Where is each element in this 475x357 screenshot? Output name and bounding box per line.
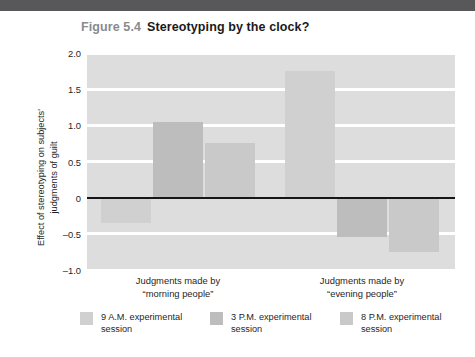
y-axis-tick-label: 0 <box>47 192 81 203</box>
gridline <box>87 124 455 127</box>
legend-label-line-1: 3 P.M. experimental <box>231 312 312 322</box>
chart-legend: 9 A.M. experimentalsession3 P.M. experim… <box>80 311 472 345</box>
figure-title-row: Figure 5.4Stereotyping by the clock? <box>81 20 309 34</box>
legend-label-line-2: session <box>361 323 469 335</box>
y-axis-tick-label: –1.0 <box>47 265 81 276</box>
legend-label-line-2: session <box>231 323 339 335</box>
legend-label-line-2: session <box>101 323 209 335</box>
figure-container: Figure 5.4Stereotyping by the clock? Eff… <box>0 0 475 357</box>
gridline <box>87 160 455 163</box>
x-axis-category-label-line-1: Judgments made by <box>93 275 263 288</box>
x-axis-category-label-line-2: “morning people” <box>93 288 263 301</box>
legend-label-line-1: 8 P.M. experimental <box>361 312 442 322</box>
legend-label-line-1: 9 A.M. experimental <box>101 312 182 322</box>
legend-item[interactable]: 9 A.M. experimentalsession <box>80 311 209 336</box>
bar <box>101 198 151 223</box>
bar <box>153 122 203 198</box>
plot-area <box>87 53 455 270</box>
legend-color-swatch <box>80 312 93 325</box>
figure-number: Figure 5.4 <box>81 20 141 34</box>
y-axis-tick-label: 1.0 <box>47 120 81 131</box>
legend-color-swatch <box>340 312 353 325</box>
figure-title: Stereotyping by the clock? <box>147 20 309 34</box>
legend-label: 9 A.M. experimentalsession <box>101 311 209 336</box>
zero-baseline <box>87 197 455 199</box>
bar <box>205 143 255 197</box>
x-axis-category-label-line-1: Judgments made by <box>277 275 447 288</box>
legend-label: 3 P.M. experimentalsession <box>231 311 339 336</box>
y-axis-tick-label: 1.5 <box>47 84 81 95</box>
gridline <box>87 269 455 271</box>
y-axis-tick-label: 2.0 <box>47 48 81 59</box>
legend-color-swatch <box>210 312 223 325</box>
gridline <box>87 53 455 55</box>
bar <box>285 71 335 198</box>
x-axis-category-labels: Judgments made by“morning people”Judgmen… <box>87 275 455 305</box>
y-axis-tick-label: –0.5 <box>47 228 81 239</box>
x-axis-category-label: Judgments made by“morning people” <box>93 275 263 300</box>
top-rule-divider <box>0 0 475 11</box>
bar <box>389 198 439 252</box>
y-axis-tick-label: 0.5 <box>47 156 81 167</box>
legend-item[interactable]: 3 P.M. experimentalsession <box>210 311 339 336</box>
legend-item[interactable]: 8 P.M. experimentalsession <box>340 311 469 336</box>
x-axis-category-label-line-2: “evening people” <box>277 288 447 301</box>
y-axis-tick-labels: 2.01.51.00.50–0.5–1.0 <box>43 53 81 270</box>
gridline <box>87 88 455 91</box>
bar <box>337 198 387 238</box>
legend-label: 8 P.M. experimentalsession <box>361 311 469 336</box>
x-axis-category-label: Judgments made by“evening people” <box>277 275 447 300</box>
